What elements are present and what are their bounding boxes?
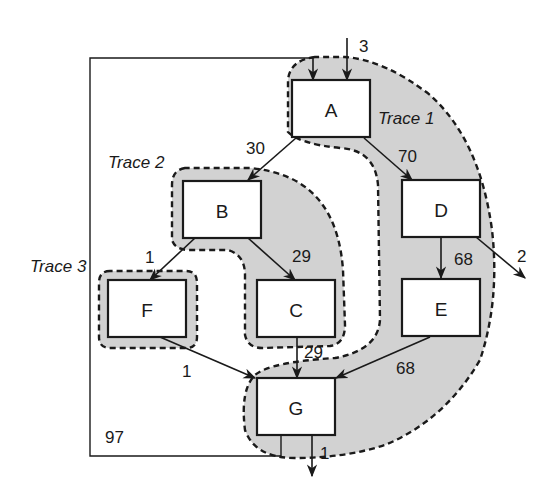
edge-label-d-e: 68 [454, 250, 473, 269]
edge-f-to-g [160, 337, 255, 378]
trace3-label: Trace 3 [30, 257, 87, 276]
edge-label-g-a-loop: 97 [105, 428, 124, 447]
edge-label-a-b: 30 [246, 139, 265, 158]
node-f: F [108, 280, 186, 337]
edge-label-b-c: 29 [292, 247, 311, 266]
svg-text:D: D [434, 200, 448, 221]
edge-label-c-g: 29 [304, 343, 323, 362]
edge-label-g-exit: 1 [320, 444, 329, 463]
node-b: B [183, 181, 261, 238]
edge-label-e-g: 68 [396, 359, 415, 378]
node-e: E [402, 279, 480, 336]
svg-text:G: G [289, 398, 304, 419]
svg-text:A: A [325, 100, 338, 121]
node-a: A [292, 80, 370, 137]
node-d: D [402, 180, 480, 237]
edge-label-b-f: 1 [145, 248, 154, 267]
edge-label-f-g: 1 [182, 362, 191, 381]
trace2-label: Trace 2 [108, 153, 165, 172]
node-g: G [257, 378, 335, 435]
edge-label-a-d: 70 [398, 147, 417, 166]
svg-text:B: B [216, 201, 229, 222]
svg-text:F: F [141, 300, 153, 321]
edge-label-d-exit: 2 [517, 247, 526, 266]
edge-label-entry-a: 3 [359, 37, 368, 56]
svg-text:C: C [289, 300, 303, 321]
trace1-label: Trace 1 [378, 109, 434, 128]
svg-text:E: E [435, 299, 448, 320]
node-c: C [257, 280, 335, 337]
trace-flow-diagram: A B C D E F G Trace 1 Trace 2 Trace 3 3 … [0, 0, 552, 486]
